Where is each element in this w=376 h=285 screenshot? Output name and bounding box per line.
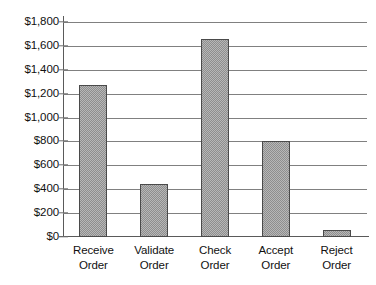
bar-slot bbox=[124, 22, 185, 237]
bar[interactable] bbox=[201, 39, 229, 237]
y-axis-tick-label: $1,000 bbox=[0, 112, 59, 124]
y-axis-tick-label: $1,400 bbox=[0, 64, 59, 76]
y-axis-tick-label: $1,600 bbox=[0, 40, 59, 52]
bar-slot bbox=[185, 22, 246, 237]
y-axis-tick-mark bbox=[59, 189, 68, 190]
bar[interactable] bbox=[79, 85, 107, 237]
y-axis-tick-mark bbox=[59, 165, 68, 166]
y-axis-tick-label: $600 bbox=[0, 160, 59, 172]
y-axis-tick-mark bbox=[59, 69, 68, 70]
x-axis-category-label: AcceptOrder bbox=[245, 243, 306, 272]
category-label-line: Accept bbox=[245, 243, 306, 258]
x-axis-category-labels: ReceiveOrderValidateOrderCheckOrderAccep… bbox=[63, 243, 367, 272]
x-axis-category-label: RejectOrder bbox=[306, 243, 367, 272]
y-axis-tick-label: $200 bbox=[0, 207, 59, 219]
y-axis-tick-label: $0 bbox=[0, 231, 59, 243]
y-axis-tick-label: $1,200 bbox=[0, 88, 59, 100]
bar[interactable] bbox=[262, 141, 290, 237]
bar-slot bbox=[306, 22, 367, 237]
category-label-line: Order bbox=[185, 258, 246, 273]
bar-slot bbox=[63, 22, 124, 237]
category-label-line: Order bbox=[63, 258, 124, 273]
category-label-line: Check bbox=[185, 243, 246, 258]
category-label-line: Order bbox=[124, 258, 185, 273]
x-axis-category-label: ReceiveOrder bbox=[63, 243, 124, 272]
bar[interactable] bbox=[323, 230, 351, 237]
x-axis-category-label: ValidateOrder bbox=[124, 243, 185, 272]
bar[interactable] bbox=[140, 184, 168, 237]
y-axis-tick-mark bbox=[59, 141, 68, 142]
y-axis-tick-label: $400 bbox=[0, 183, 59, 195]
category-label-line: Order bbox=[245, 258, 306, 273]
bar-series bbox=[63, 22, 367, 237]
category-label-line: Order bbox=[306, 258, 367, 273]
bar-slot bbox=[245, 22, 306, 237]
y-axis-tick-mark bbox=[59, 117, 68, 118]
y-axis-tick-mark bbox=[59, 212, 68, 213]
y-axis-tick-label: $1,800 bbox=[0, 16, 59, 28]
category-label-line: Receive bbox=[63, 243, 124, 258]
y-axis-tick-mark bbox=[59, 21, 68, 22]
bar-chart: $0$200$400$600$800$1,000$1,200$1,400$1,6… bbox=[0, 0, 376, 285]
y-axis-tick-mark bbox=[59, 45, 68, 46]
y-axis-tick-mark bbox=[59, 93, 68, 94]
category-label-line: Validate bbox=[124, 243, 185, 258]
y-axis-tick-labels: $0$200$400$600$800$1,000$1,200$1,400$1,6… bbox=[0, 0, 59, 285]
plot-area bbox=[63, 22, 367, 237]
y-axis-tick-label: $800 bbox=[0, 136, 59, 148]
x-axis-category-label: CheckOrder bbox=[185, 243, 246, 272]
y-axis-tick-mark bbox=[59, 236, 68, 237]
category-label-line: Reject bbox=[306, 243, 367, 258]
